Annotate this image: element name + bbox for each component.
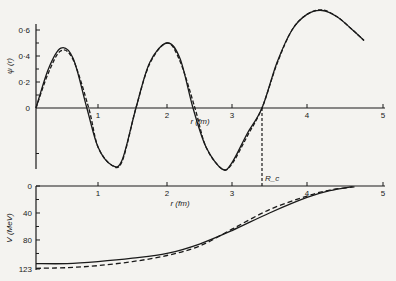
top-x-tick-label: 1 [96,111,101,120]
chart-svg: 1234500·20·40·6 ψ (r) r (fm) R_c 1234504… [0,0,396,281]
figure: 1234500·20·40·6 ψ (r) r (fm) R_c 1234504… [0,0,396,281]
potential-plot: 1234504080123 V (MeV) r (fm) [5,182,386,274]
wavefunction-plot: 1234500·20·40·6 ψ (r) r (fm) R_c [5,10,386,186]
top-x-tick-label: 4 [305,111,310,120]
top-series-dashed [36,10,364,170]
top-series-solid [36,10,364,170]
bottom-y-tick-label: 123 [19,265,33,274]
bottom-series-solid [36,187,353,264]
bottom-y-tick-label: 80 [23,236,32,245]
bottom-y-label: V (MeV) [5,213,14,243]
bottom-x-tick-label: 2 [165,189,170,198]
top-y-tick-label: 0·6 [18,26,30,35]
top-x-tick-label: 3 [230,111,235,120]
top-y-tick-label: 0·2 [18,78,30,87]
bottom-x-label: r (fm) [170,199,189,208]
top-x-label: r (fm) [190,117,209,126]
rc-annotation: R_c [265,174,279,183]
bottom-y-tick-label: 0 [28,182,33,191]
bottom-series-dashed [36,187,356,269]
top-y-tick-label: 0·4 [18,52,30,61]
top-y-tick-label: 0 [26,104,31,113]
top-x-tick-label: 2 [165,111,170,120]
bottom-x-tick-label: 5 [381,189,386,198]
top-x-tick-label: 5 [381,111,386,120]
top-y-label: ψ (r) [5,58,14,74]
bottom-x-tick-label: 1 [96,189,101,198]
bottom-x-tick-label: 3 [230,189,235,198]
bottom-y-tick-label: 40 [23,209,32,218]
